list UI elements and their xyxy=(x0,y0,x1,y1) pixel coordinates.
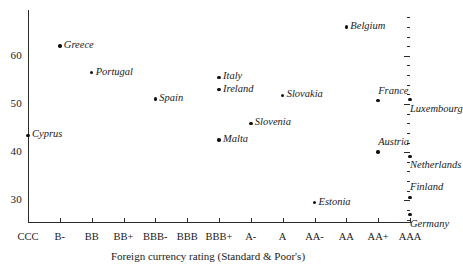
x-tick xyxy=(92,218,93,223)
data-point-label: Slovenia xyxy=(255,116,291,127)
y-tick-minor xyxy=(407,65,411,66)
data-point xyxy=(58,44,61,47)
y-tick-minor xyxy=(407,46,411,47)
data-point-label: Estonia xyxy=(319,196,351,207)
data-point xyxy=(408,155,411,158)
x-tick xyxy=(219,218,220,223)
data-point-label: Spain xyxy=(159,92,183,103)
data-point-label: Ireland xyxy=(223,83,254,94)
y-tick-minor xyxy=(407,133,411,134)
plot-area: CyprusGreecePortugalSpainItalyIrelandMal… xyxy=(28,10,410,222)
x-tick xyxy=(346,218,347,223)
y-tick-major xyxy=(404,152,410,153)
data-point xyxy=(281,94,284,97)
x-tick xyxy=(283,218,284,223)
y-tick-minor xyxy=(407,171,411,172)
data-point-label: Greece xyxy=(64,39,94,50)
data-point-label: Belgium xyxy=(350,20,385,31)
y-tick-minor xyxy=(407,37,411,38)
x-tick xyxy=(315,218,316,223)
data-point xyxy=(376,99,379,102)
x-tick xyxy=(378,218,379,223)
data-point xyxy=(408,98,411,101)
x-tick xyxy=(251,218,252,223)
data-point-label: Cyprus xyxy=(32,128,62,139)
data-point xyxy=(408,196,411,199)
data-point-label: Portugal xyxy=(96,66,133,77)
x-tick xyxy=(187,218,188,223)
y-tick-minor xyxy=(407,27,411,28)
data-point xyxy=(345,25,348,28)
y-axis-line xyxy=(28,10,29,222)
data-point xyxy=(249,122,252,125)
data-point xyxy=(217,76,220,79)
data-point xyxy=(217,138,220,141)
x-tick-label: AAA xyxy=(386,231,434,242)
y-tick-minor xyxy=(407,123,411,124)
y-tick-minor xyxy=(407,210,411,211)
data-point xyxy=(408,213,411,216)
y-tick-minor xyxy=(407,17,411,18)
x-tick xyxy=(28,218,29,223)
x-tick xyxy=(60,218,61,223)
y-tick-major xyxy=(404,56,410,57)
y-tick-label: 30 xyxy=(0,193,22,205)
data-point xyxy=(313,201,316,204)
data-point-label: Slovakia xyxy=(287,88,323,99)
data-point xyxy=(217,88,220,91)
y-tick-label: 40 xyxy=(0,145,22,157)
y-tick-label: 60 xyxy=(0,49,22,61)
data-point xyxy=(154,97,157,100)
y-tick-major xyxy=(404,200,410,201)
data-point-label: Italy xyxy=(223,70,242,81)
y-tick-label: 50 xyxy=(0,97,22,109)
x-tick xyxy=(124,218,125,223)
data-point xyxy=(26,134,29,137)
data-point xyxy=(376,150,379,153)
y-tick-minor xyxy=(407,75,411,76)
x-tick xyxy=(155,218,156,223)
y-tick-minor xyxy=(407,114,411,115)
data-point-label: Malta xyxy=(223,133,248,144)
x-axis-title: Foreign currency rating (Standard & Poor… xyxy=(0,250,416,262)
data-point xyxy=(90,71,93,74)
